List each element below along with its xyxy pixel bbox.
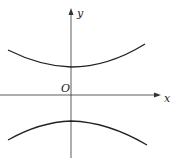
lower-branch [8,121,147,145]
x-axis-label: x [164,92,171,105]
y-axis-label: y [76,7,84,20]
hyperbola-diagram: y x O [0,0,177,160]
y-axis-arrow [69,8,74,15]
origin-label: O [61,82,70,95]
upper-branch [8,44,145,67]
x-axis-arrow [154,93,161,98]
